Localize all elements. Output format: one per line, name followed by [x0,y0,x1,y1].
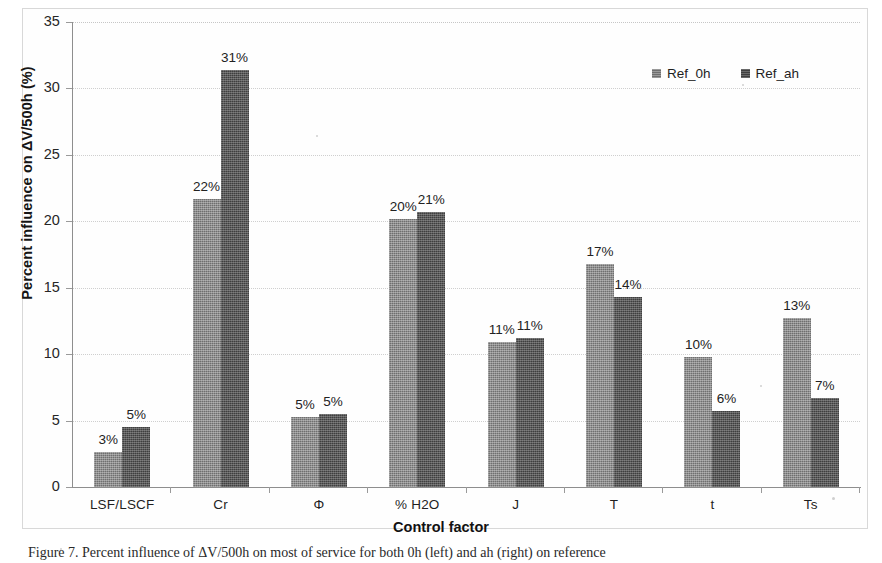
legend-swatch-icon [741,69,750,78]
legend-item: Ref_0h [652,66,711,81]
x-tick-label: Cr [171,497,269,519]
bar: 20% [389,219,417,487]
scan-speck [60,548,62,550]
bar: 5% [291,417,319,487]
bar-value-label: 3% [98,432,118,447]
y-tick-label: 5 [30,412,60,428]
bar: 13% [783,318,811,487]
scan-speck [760,385,762,387]
x-tick-label: % H2O [368,497,466,519]
scan-speck [742,84,744,86]
bar-value-label: 7% [815,378,835,393]
legend: Ref_0hRef_ah [652,66,799,81]
bar-value-label: 21% [418,192,445,207]
bar-value-label: 13% [783,298,810,313]
bar: 5% [122,427,150,487]
bar-group: 10%6% [663,22,761,487]
legend-item: Ref_ah [741,66,800,81]
x-tick-label: J [467,497,565,519]
x-tick-label: Ts [762,497,860,519]
bar-value-label: 6% [717,391,737,406]
bar-value-label: 11% [517,318,543,333]
bar: 22% [193,199,221,487]
bar: 6% [712,411,740,487]
bar-value-label: 17% [587,244,614,259]
y-tick-label: 0 [30,478,60,494]
bar-group: 11%11% [467,22,565,487]
bar-group: 13%7% [762,22,860,487]
bar: 14% [614,297,642,487]
bar: 11% [488,342,516,487]
bar: 17% [586,264,614,487]
bar-value-label: 31% [221,50,248,65]
x-tick-label: t [663,497,761,519]
bar-value-label: 10% [685,337,712,352]
bar-group: 22%31% [171,22,269,487]
bar: 11% [516,338,544,487]
figure-container: 05101520253035 Percent influence on ΔV/5… [0,0,882,563]
x-tick-label: Φ [270,497,368,519]
x-axis-title: Control factor [0,519,882,535]
bar: 5% [319,414,347,487]
bar-value-label: 20% [390,199,417,214]
bar-groups: 3%5%22%31%5%5%20%21%11%11%17%14%10%6%13%… [73,22,860,487]
bar: 3% [94,452,122,487]
figure-caption: Figure 7. Percent influence of ΔV/500h o… [28,543,858,563]
bar-group: 17%14% [565,22,663,487]
x-tick-label: T [565,497,663,519]
x-axis-labels: LSF/LSCFCrΦ% H2OJTtTs [73,497,860,519]
bar-value-label: 5% [295,397,315,412]
x-tick-label: LSF/LSCF [73,497,171,519]
bar: 31% [221,70,249,487]
bar-value-label: 14% [615,277,642,292]
bar-group: 20%21% [368,22,466,487]
bar: 10% [684,357,712,487]
legend-label: Ref_0h [667,66,711,81]
bar-group: 3%5% [73,22,171,487]
bar: 7% [811,398,839,487]
bar-value-label: 22% [193,179,220,194]
bar-value-label: 11% [489,322,515,337]
bar-value-label: 5% [323,394,343,409]
scan-speck [316,135,318,137]
bar-value-label: 5% [126,407,146,422]
bar-group: 5%5% [270,22,368,487]
bar: 21% [417,212,445,487]
legend-swatch-icon [652,69,661,78]
legend-label: Ref_ah [756,66,800,81]
scan-speck [832,497,835,500]
y-axis-title: Percent influence on ΔV/500h (%) [19,18,35,348]
